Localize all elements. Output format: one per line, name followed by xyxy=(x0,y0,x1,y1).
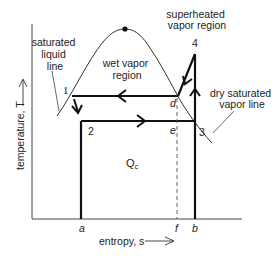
saturated-liquid-leader xyxy=(52,71,59,111)
point-d-label: d xyxy=(170,97,177,109)
wet-vapor-region-label: wet vapor region xyxy=(102,57,151,81)
point-2-label: 2 xyxy=(88,125,94,137)
point-a-label: a xyxy=(79,222,85,234)
heat-qc-label: Qc xyxy=(126,157,139,171)
line-4-d xyxy=(178,54,195,96)
point-b-label: b xyxy=(192,222,198,234)
x-axis-label: entropy, s xyxy=(99,235,144,247)
critical-point xyxy=(122,26,127,31)
point-1-label: 1 xyxy=(63,84,69,96)
y-axis-label: temperature, T xyxy=(14,101,26,170)
arrow-down-left-icon xyxy=(183,76,192,84)
point-4-label: 4 xyxy=(192,37,198,49)
t-s-diagram: temperature, T entropy, s saturated liqu… xyxy=(0,0,276,260)
superheated-region-label: superheated vapor region xyxy=(166,8,227,31)
dry-saturated-vapor-leader xyxy=(213,111,234,133)
point-f-label: f xyxy=(175,222,179,234)
dry-saturated-vapor-label: dry saturated vapor line xyxy=(210,87,274,110)
point-3-label: 3 xyxy=(199,126,205,138)
saturated-liquid-label: saturated liquid line xyxy=(32,36,79,72)
point-e-label: e xyxy=(170,124,176,136)
